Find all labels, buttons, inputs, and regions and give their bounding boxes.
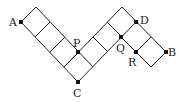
geometry-diagram: A P C Q D R B (0, 0, 178, 102)
label-d: D (140, 14, 149, 27)
point-c-marker (76, 80, 80, 84)
point-q-marker (119, 35, 123, 39)
label-p: P (73, 37, 81, 50)
label-a: A (8, 16, 18, 29)
label-b: B (168, 46, 176, 59)
label-r: R (128, 56, 137, 69)
point-r-marker (134, 50, 138, 54)
label-q: Q (116, 42, 125, 55)
label-c: C (73, 87, 81, 100)
point-markers (19, 20, 168, 84)
point-a-marker (19, 20, 23, 24)
point-p-marker (76, 50, 80, 54)
point-d-marker (134, 20, 138, 24)
